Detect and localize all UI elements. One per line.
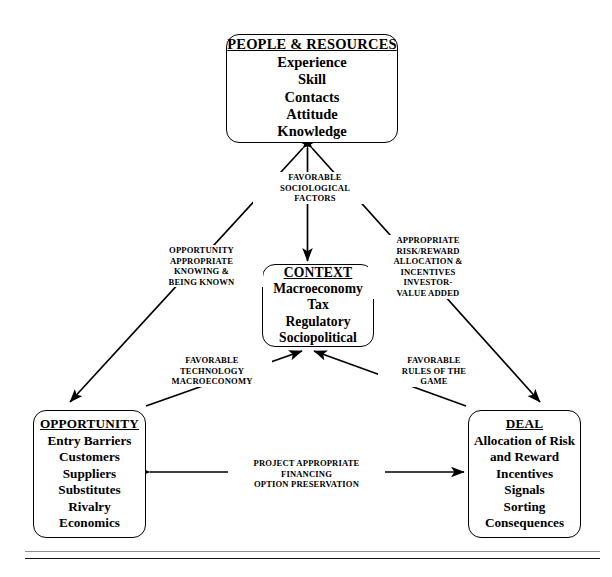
edge-label-line: FAVORABLE <box>253 172 377 183</box>
edge-label-line: GAME <box>378 376 490 387</box>
node-deal-item: Sorting <box>504 499 546 516</box>
node-deal-title: DEAL <box>506 416 543 433</box>
node-people-and-resources[interactable]: PEOPLE & RESOURCES Experience Skill Cont… <box>226 34 398 143</box>
node-context-title: CONTEXT <box>284 265 353 281</box>
edge-label-line: APPROPRIATE <box>368 235 488 246</box>
edge-label-line: SOCIOLOGICAL <box>253 183 377 194</box>
edge-label-line: FAVORABLE <box>152 355 272 366</box>
edge-label-line: APPROPRIATE <box>140 256 263 267</box>
edge-label-line: INVESTOR- <box>368 277 488 288</box>
edge-label-line: ALLOCATION & <box>368 256 488 267</box>
node-people-item: Knowledge <box>277 123 346 140</box>
edge-label-line: BEING KNOWN <box>140 277 263 288</box>
edge-label-line: KNOWING & <box>140 266 263 277</box>
edge-label-line: RULES OF THE <box>378 366 490 377</box>
node-context-item: Regulatory <box>286 314 351 330</box>
node-opportunity-item: Substitutes <box>58 482 120 499</box>
node-people-item: Experience <box>277 54 346 71</box>
edge-label-line: RISK/REWARD <box>368 246 488 257</box>
edge-label-people-deal: APPROPRIATE RISK/REWARD ALLOCATION & INC… <box>368 235 488 299</box>
edge-label-deal-context: FAVORABLE RULES OF THE GAME <box>378 355 490 387</box>
node-context-item: Macroeconomy <box>273 281 363 297</box>
node-deal-item: Incentives <box>496 466 553 483</box>
node-opportunity-item: Economics <box>59 515 120 532</box>
edge-label-line: INCENTIVES <box>368 267 488 278</box>
footer-rule-bottom <box>25 558 600 559</box>
edge-label-line: OPTION PRESERVATION <box>228 479 385 490</box>
footer-rule-top <box>25 551 600 552</box>
node-deal-item: and Reward <box>490 449 559 466</box>
edge-label-line: OPPORTUNITY <box>140 245 263 256</box>
edge-label-opportunity-deal: PROJECT APPROPRIATE FINANCING OPTION PRE… <box>228 458 385 490</box>
node-context-item: Tax <box>307 297 328 313</box>
node-deal-item: Consequences <box>485 515 564 532</box>
edge-label-line: FAVORABLE <box>378 355 490 366</box>
node-people-item: Attitude <box>286 106 338 123</box>
edge-label-people-opportunity: OPPORTUNITY APPROPRIATE KNOWING & BEING … <box>140 245 263 287</box>
edge-label-opportunity-context: FAVORABLE TECHNOLOGY MACROECONOMY <box>152 355 272 387</box>
node-people-title: PEOPLE & RESOURCES <box>227 36 397 53</box>
node-opportunity-title: OPPORTUNITY <box>40 416 139 433</box>
node-opportunity-item: Suppliers <box>63 466 117 483</box>
node-people-item: Skill <box>298 71 326 88</box>
edge-label-line: TECHNOLOGY <box>152 366 272 377</box>
node-deal-item: Allocation of Risk <box>474 433 575 450</box>
node-context-item: Sociopolitical <box>279 330 357 346</box>
node-deal-item: Signals <box>504 482 544 499</box>
node-opportunity[interactable]: OPPORTUNITY Entry Barriers Customers Sup… <box>33 410 146 538</box>
node-people-item: Contacts <box>285 89 340 106</box>
diagram-canvas: PEOPLE & RESOURCES Experience Skill Cont… <box>0 0 612 577</box>
edge-label-people-context: FAVORABLE SOCIOLOGICAL FACTORS <box>253 172 377 204</box>
edge-label-line: VALUE ADDED <box>368 288 488 299</box>
node-opportunity-item: Rivalry <box>68 499 111 516</box>
edge-label-line: FINANCING <box>228 469 385 480</box>
node-deal[interactable]: DEAL Allocation of Risk and Reward Incen… <box>468 410 581 538</box>
node-context[interactable]: CONTEXT Macroeconomy Tax Regulatory Soci… <box>262 264 374 347</box>
edge-label-line: PROJECT APPROPRIATE <box>228 458 385 469</box>
node-opportunity-item: Entry Barriers <box>48 433 132 450</box>
node-opportunity-item: Customers <box>59 449 120 466</box>
edge-label-line: FACTORS <box>253 193 377 204</box>
edge-label-line: MACROECONOMY <box>152 376 272 387</box>
